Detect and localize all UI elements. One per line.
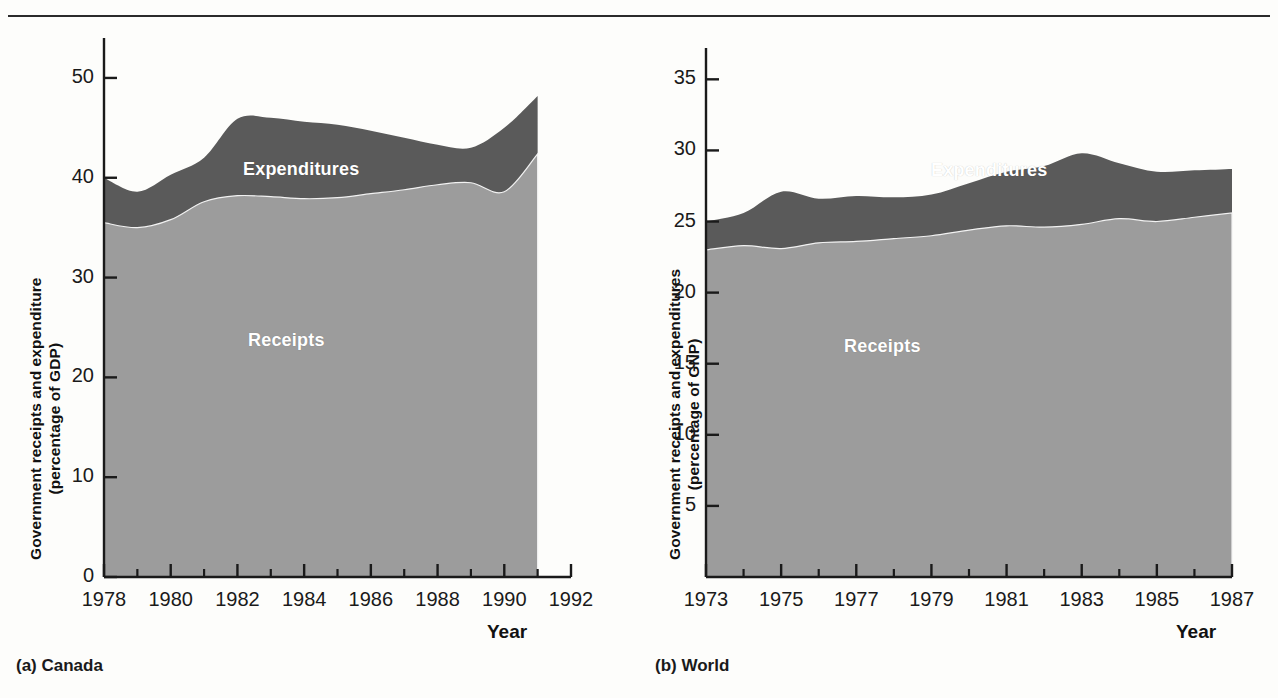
- series-label-expenditures-canada: Expenditures: [243, 159, 359, 180]
- x-tick-label: 1988: [404, 588, 472, 611]
- series-label-receipts-world: Receipts: [844, 336, 921, 357]
- chart-panel-canada: Government receipts and expenditure (per…: [0, 0, 639, 698]
- x-axis-title-world: Year: [1176, 621, 1216, 643]
- y-tick-label: 35: [674, 66, 696, 89]
- y-tick-label: 20: [72, 364, 94, 387]
- x-tick-label: 1978: [70, 588, 138, 611]
- area-receipts: [706, 213, 1232, 577]
- x-tick-label: 1975: [747, 588, 815, 611]
- y-tick-label: 5: [685, 493, 696, 516]
- x-tick-label: 1990: [470, 588, 538, 611]
- x-tick-label: 1973: [672, 588, 740, 611]
- x-tick-label: 1984: [270, 588, 338, 611]
- y-tick-label: 0: [83, 564, 94, 587]
- x-tick-label: 1981: [973, 588, 1041, 611]
- chart-panel-world: Government receipts and expenditures (pe…: [639, 0, 1278, 698]
- x-tick-label: 1985: [1123, 588, 1191, 611]
- x-tick-label: 1986: [337, 588, 405, 611]
- y-tick-label: 30: [674, 137, 696, 160]
- figure-page: Government receipts and expenditure (per…: [0, 0, 1278, 698]
- x-tick-label: 1983: [1048, 588, 1116, 611]
- x-tick-label: 1987: [1198, 588, 1266, 611]
- y-tick-label: 20: [674, 280, 696, 303]
- y-tick-label: 30: [72, 265, 94, 288]
- x-tick-label: 1979: [897, 588, 965, 611]
- x-tick-label: 1982: [203, 588, 271, 611]
- y-tick-label: 15: [674, 351, 696, 374]
- panel-caption-canada: (a) Canada: [16, 656, 103, 676]
- y-tick-label: 10: [72, 464, 94, 487]
- x-tick-label: 1980: [137, 588, 205, 611]
- x-axis-title-canada: Year: [487, 621, 527, 643]
- y-tick-label: 10: [674, 422, 696, 445]
- y-tick-label: 50: [72, 65, 94, 88]
- x-tick-label: 1992: [537, 588, 605, 611]
- y-tick-label: 25: [674, 209, 696, 232]
- panel-caption-world: (b) World: [655, 656, 729, 676]
- series-label-receipts-canada: Receipts: [248, 330, 325, 351]
- series-label-expenditures-world: Expenditures: [931, 160, 1047, 181]
- y-tick-label: 40: [72, 165, 94, 188]
- x-tick-label: 1977: [822, 588, 890, 611]
